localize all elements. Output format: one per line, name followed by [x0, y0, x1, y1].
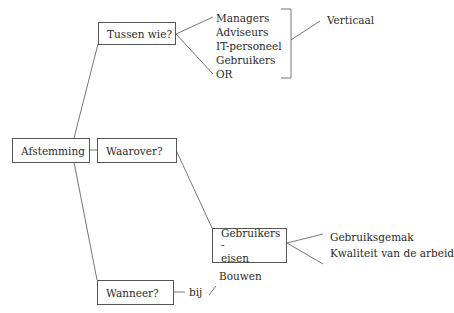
list-item: Adviseurs: [216, 25, 282, 39]
node-gebruikerseisen-line2: eisen: [221, 252, 286, 265]
requirement-kwaliteit: Kwaliteit van de arbeid: [330, 247, 454, 259]
node-afstemming: Afstemming: [12, 138, 90, 163]
node-wanneer: Wanneer?: [97, 280, 174, 305]
list-item: IT-personeel: [216, 39, 282, 53]
list-item: Gebruikers: [216, 53, 282, 67]
node-waarover-label: Waarover?: [106, 145, 163, 157]
node-tussen-wie-label: Tussen wie?: [107, 28, 172, 40]
stakeholder-list: Managers Adviseurs IT-personeel Gebruike…: [216, 11, 282, 81]
list-item: OR: [216, 67, 282, 81]
node-wanneer-label: Wanneer?: [106, 287, 159, 299]
connector-bij: bij: [189, 286, 202, 298]
node-gebruikerseisen-line1: Gebruikers -: [221, 227, 286, 252]
node-gebruikerseisen: Gebruikers - eisen: [212, 228, 287, 263]
list-item: Managers: [216, 11, 282, 25]
requirement-gebruiksgemak: Gebruiksgemak: [330, 231, 414, 243]
node-waarover: Waarover?: [97, 138, 177, 163]
node-afstemming-label: Afstemming: [21, 145, 85, 157]
phase-bouwen: Bouwen: [219, 270, 262, 282]
node-tussen-wie: Tussen wie?: [98, 22, 176, 45]
group-label-verticaal: Verticaal: [327, 14, 374, 26]
